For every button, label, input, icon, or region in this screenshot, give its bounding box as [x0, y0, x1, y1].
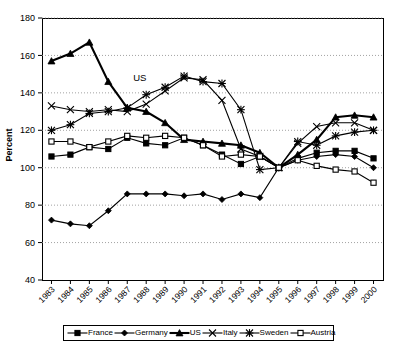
chart-legend: FranceGermanyUSItalySwedenAustria [63, 325, 334, 341]
legend-item-label: Austria [311, 329, 337, 337]
x-tick-label: 1993 [226, 284, 247, 305]
y-tick-label: 40 [25, 275, 35, 285]
y-tick-label: 140 [20, 88, 35, 98]
x-tick-label: 1997 [302, 284, 323, 305]
legend-marker-filled-square [67, 328, 88, 338]
series-austria [49, 133, 376, 185]
x-tick-label: 1995 [264, 284, 285, 305]
series-line [51, 42, 373, 167]
y-tick-label: 180 [20, 13, 35, 23]
x-tick-label: 1991 [188, 284, 209, 305]
y-tick-label: 120 [20, 125, 35, 135]
legend-marker-open-square [290, 328, 311, 338]
x-tick-label: 1996 [283, 284, 304, 305]
legend-item-austria[interactable]: Austria [290, 328, 337, 338]
series-line [51, 78, 373, 168]
x-tick-label: 1986 [93, 284, 114, 305]
legend-marker-filled-diamond [114, 328, 135, 338]
series-sweden [48, 72, 378, 173]
y-tick-label: 160 [20, 51, 35, 61]
legend-item-france[interactable]: France [67, 328, 114, 338]
x-tick-label: 1987 [112, 284, 133, 305]
legend-item-label: France [88, 329, 114, 337]
legend-item-label: Germany [135, 329, 169, 337]
x-tick-label: 1989 [150, 284, 171, 305]
x-tick-label: 1985 [74, 284, 95, 305]
series-italy [48, 74, 377, 171]
legend-item-us[interactable]: US [169, 328, 202, 338]
x-tick-label: 1999 [340, 284, 361, 305]
plot-frame [43, 19, 384, 281]
y-tick-label: 60 [25, 238, 35, 248]
legend-marker-filled-triangle [169, 328, 190, 338]
series-germany [48, 152, 376, 229]
x-tick-label: 1983 [36, 284, 57, 305]
legend-item-label: US [190, 329, 202, 337]
x-tick-label: 1992 [207, 284, 228, 305]
x-tick-label: 1998 [321, 284, 342, 305]
y-axis-title: Percent [4, 115, 14, 175]
legend-marker-asterisk [239, 328, 260, 338]
x-tick-label: 1990 [169, 284, 190, 305]
legend-item-label: Italy [223, 329, 239, 337]
x-tick-label: 1994 [245, 284, 266, 305]
y-tick-label: 100 [20, 163, 35, 173]
legend-marker-cross-x [202, 328, 223, 338]
legend-item-label: Sweden [260, 329, 290, 337]
legend-item-germany[interactable]: Germany [114, 328, 169, 338]
legend-item-sweden[interactable]: Sweden [239, 328, 290, 338]
x-tick-label: 1988 [131, 284, 152, 305]
y-tick-label: 80 [25, 200, 35, 210]
x-tick-label: 1984 [55, 284, 76, 305]
legend-item-italy[interactable]: Italy [202, 328, 239, 338]
annotation-label: US [133, 72, 146, 83]
x-tick-label: 2000 [358, 284, 379, 305]
chart-figure: Percent 40608010012014016018019831984198… [0, 0, 395, 349]
series-line [51, 155, 373, 226]
line-chart-plot: 4060801001201401601801983198419851986198… [0, 0, 395, 349]
